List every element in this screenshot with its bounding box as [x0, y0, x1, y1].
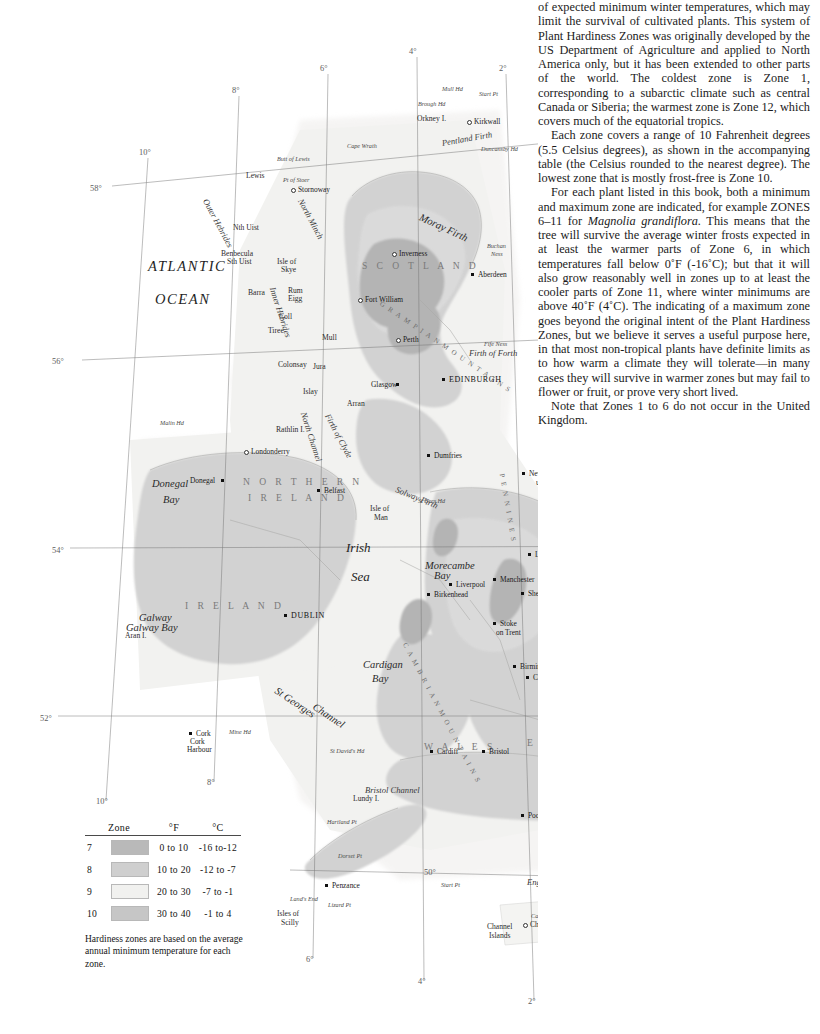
city-marker-icon — [513, 665, 516, 668]
legend-color-swatch — [107, 902, 153, 924]
body-text-run: Each zone covers a range of 10 Fahrenhei… — [538, 128, 810, 185]
graticule-degree-label: 4° — [409, 47, 417, 56]
water-feature-label: Firth of Forth — [469, 349, 517, 358]
ocean-label: ATLANTIC — [148, 259, 226, 274]
legend-body: 70 to 10-16 to-12810 to 20-12 to -7920 t… — [85, 836, 241, 925]
legend-zone-number: 7 — [85, 836, 107, 859]
legend-zone-number: 8 — [85, 858, 107, 880]
legend-fahrenheit-range: 10 to 20 — [153, 858, 195, 880]
legend-header-celsius: °C — [195, 822, 241, 836]
headland-label: Lizard Pt — [328, 902, 351, 909]
city-label: Cherbourg — [530, 921, 538, 929]
city-label: Glasgow — [371, 381, 397, 389]
city-label: Belfast — [324, 487, 345, 495]
city-marker-icon — [317, 489, 320, 492]
island-label: Man — [374, 514, 388, 522]
swatch-zone-7 — [111, 840, 149, 855]
headland-label: Duncansby Hd — [481, 146, 518, 153]
city-label: Donegal — [190, 477, 215, 485]
swatch-zone-9 — [111, 884, 149, 899]
headland-label: Dorset Pt — [338, 853, 362, 860]
legend-note: Hardiness zones are based on the average… — [85, 933, 253, 970]
island-label: Barra — [248, 289, 265, 297]
legend-celsius-range: -7 to -1 — [195, 880, 241, 902]
headland-label: Cape Wrath — [347, 143, 377, 150]
headland-label: Start Pt — [441, 882, 460, 889]
headland-label: Start Pt — [479, 91, 498, 98]
city-marker-icon — [471, 273, 474, 276]
headland-label: Fife Ness — [484, 341, 507, 348]
city-label: Birmingham — [520, 663, 538, 671]
legend-row: 920 to 30-7 to -1 — [85, 880, 241, 902]
headland-label: Mine Hd — [229, 729, 251, 736]
country-label: E N G L A N D — [527, 738, 538, 748]
graticule-degree-label: 58° — [90, 184, 102, 193]
graticule-degree-label: 8° — [207, 778, 215, 787]
city-label: Newcastle — [529, 470, 538, 478]
city-marker-icon — [482, 750, 485, 753]
city-marker-icon — [442, 378, 445, 381]
graticule-degree-label: 4° — [418, 977, 426, 986]
body-text-run: Note that Zones 1 to 6 do not occur in t… — [538, 399, 810, 427]
city-marker-icon — [528, 553, 531, 556]
headland-label: Brough Hd — [418, 101, 445, 108]
island-label: Aran I. — [125, 632, 147, 640]
island-label: Arran — [347, 400, 365, 408]
body-paragraph: Each zone covers a range of 10 Fahrenhei… — [538, 128, 810, 185]
city-label: Manchester — [500, 576, 534, 584]
city-marker-icon — [325, 884, 328, 887]
city-label: Dumfries — [434, 452, 462, 460]
city-label: on Trent — [496, 629, 521, 637]
city-marker-icon — [189, 732, 192, 735]
explanatory-text-column: of expected minimum winter temperatures,… — [538, 0, 810, 428]
city-marker-icon — [427, 454, 430, 457]
legend-celsius-range: -1 to 4 — [195, 902, 241, 924]
legend-zone-number: 9 — [85, 880, 107, 902]
headland-label: Hartland Pt — [327, 819, 357, 826]
city-label: Cardiff — [437, 748, 458, 756]
graticule-degree-label: 54° — [52, 546, 64, 555]
city-label: EDINBURGH — [449, 376, 502, 384]
city-marker-icon — [493, 578, 496, 581]
city-marker-icon — [430, 750, 433, 753]
legend-fahrenheit-range: 0 to 10 — [153, 836, 195, 859]
city-marker-icon — [449, 583, 452, 586]
city-label: Stornoway — [298, 186, 330, 194]
island-label: Isles of — [277, 910, 299, 918]
city-label: Leeds — [535, 551, 538, 559]
swatch-zone-8 — [111, 862, 149, 877]
island-label: Tiree — [268, 327, 284, 335]
water-feature-label: Bay — [434, 570, 450, 581]
island-label: Isle of — [370, 505, 389, 513]
body-paragraph: For each plant listed in this book, both… — [538, 185, 810, 399]
city-marker-icon — [396, 383, 399, 386]
graticule-degree-label: 50° — [424, 868, 436, 877]
sea-label: Sea — [351, 570, 370, 584]
water-feature-label: Cardigan — [363, 659, 403, 670]
graticule-degree-label: 10° — [139, 148, 151, 157]
legend-fahrenheit-range: 30 to 40 — [153, 902, 195, 924]
city-label: Sheffield — [528, 590, 538, 598]
graticule-degree-label: 6° — [306, 955, 314, 964]
city-label: Bristol — [489, 748, 509, 756]
city-label: Poole — [528, 812, 538, 820]
hardiness-zone-legend: Zone °F °C 70 to 10-16 to-12810 to 20-12… — [85, 822, 270, 970]
legend-celsius-range: -16 to-12 — [195, 836, 241, 859]
body-text-run: This means that the tree will survive th… — [538, 214, 810, 399]
headland-label: Mull Hd — [442, 86, 463, 93]
city-label: DUBLIN — [291, 612, 325, 620]
city-marker-icon — [521, 814, 524, 817]
island-label: Mull — [322, 334, 337, 342]
country-label: I R E L A N D — [185, 601, 284, 611]
island-label: Lundy I. — [353, 795, 379, 803]
legend-row: 70 to 10-16 to-12 — [85, 836, 241, 859]
country-label: S C O T L A N D — [362, 261, 479, 271]
legend-header-zone: Zone — [85, 822, 153, 836]
island-label: Sth Uist — [227, 258, 252, 266]
island-label: Colonsay — [278, 361, 307, 369]
city-label: Penzance — [332, 882, 360, 890]
island-label: Rathlin I. — [276, 426, 305, 434]
water-feature-label: Donegal — [152, 478, 188, 489]
legend-celsius-range: -12 to -7 — [195, 858, 241, 880]
city-marker-icon — [427, 593, 430, 596]
